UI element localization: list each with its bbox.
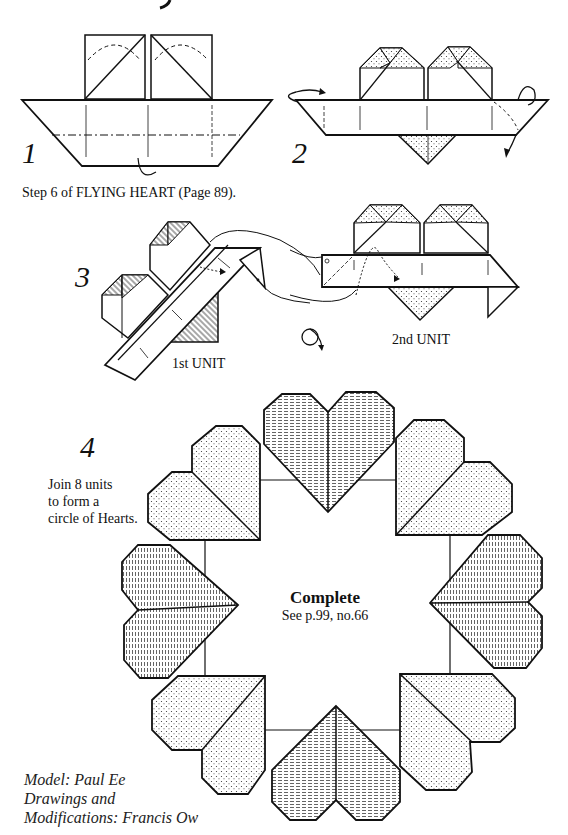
ring-heart-bottom-right: [400, 674, 515, 790]
step-3-number: 3: [75, 262, 90, 292]
step-1-caption: Step 6 of FLYING HEART (Page 89).: [22, 185, 236, 200]
step-1-number: 1: [22, 138, 37, 168]
step-2-diagram: [280, 30, 568, 170]
step-4-number: 4: [80, 432, 95, 462]
credit-modifications: Modifications: Francis Ow: [24, 808, 198, 827]
ring-heart-left: [122, 545, 238, 678]
credits: Model: Paul Ee Drawings and Modification…: [24, 770, 198, 827]
turn-over-icon: [302, 329, 324, 351]
complete-title: Complete: [240, 588, 410, 608]
complete-reference: See p.99, no.66: [240, 608, 410, 624]
credit-drawings: Drawings and: [24, 789, 198, 808]
ring-heart-top-left: [148, 426, 260, 540]
step-3-second-unit-diagram: [290, 195, 560, 355]
step-1-diagram: [0, 30, 290, 160]
credit-model: Model: Paul Ee: [24, 770, 198, 789]
step-3-first-unit-diagram: [60, 200, 310, 380]
ring-heart-bottom: [272, 706, 400, 820]
ring-heart-top: [264, 392, 394, 512]
ring-heart-top-right: [396, 420, 512, 535]
result-label: Complete See p.99, no.66: [240, 588, 410, 624]
first-unit-label: 1st UNIT: [172, 356, 225, 372]
second-unit-label: 2nd UNIT: [392, 332, 450, 348]
ring-heart-right: [430, 535, 542, 668]
title-fragment: [150, 0, 190, 10]
step-2-number: 2: [292, 138, 307, 168]
